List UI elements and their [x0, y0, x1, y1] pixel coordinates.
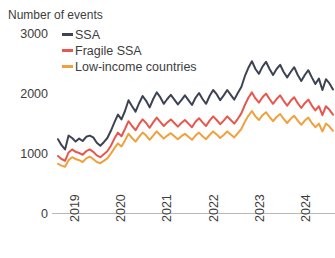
x-axis-tick-2021: 2021	[160, 194, 174, 222]
x-axis-tick-2023: 2023	[253, 194, 267, 222]
x-axis-tick-2020: 2020	[114, 194, 128, 222]
x-axis-tick-2023-wrap: 2023	[240, 222, 254, 258]
x-axis-tick-2022-wrap: 2022	[194, 222, 208, 258]
x-axis-tick-2020-wrap: 2020	[101, 222, 115, 258]
x-axis-tick-2019-wrap: 2019	[55, 222, 69, 258]
series-line-fragile-ssa	[58, 92, 333, 160]
x-axis-tick-2024: 2024	[299, 194, 313, 222]
x-axis-tick-2019: 2019	[68, 194, 82, 222]
series-lines	[58, 61, 333, 167]
x-axis-tick-2022: 2022	[207, 194, 221, 222]
x-axis-tick-2024-wrap: 2024	[286, 222, 300, 258]
series-line-low-income-countries	[58, 111, 333, 167]
x-axis-tick-2021-wrap: 2021	[147, 222, 161, 258]
chart-container: Number of events 3000 2000 1000 0 SSA Fr…	[0, 0, 335, 258]
